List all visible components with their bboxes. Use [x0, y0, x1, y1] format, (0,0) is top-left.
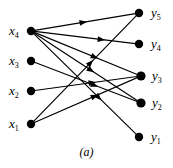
graph-node-y3[interactable]	[136, 71, 145, 80]
figure-container: x4x3x2x1y5y4y3y2y1 (a)	[0, 0, 173, 168]
graph-node-y5[interactable]	[135, 9, 143, 17]
node-label-base: x	[9, 116, 15, 131]
graph-edge	[35, 31, 136, 43]
node-label-subscript: 3	[15, 61, 19, 70]
node-label-y5: y5	[151, 6, 161, 19]
node-label-subscript: 5	[157, 13, 161, 22]
graph-edge	[34, 16, 137, 122]
node-label-base: y	[152, 68, 158, 83]
bipartite-graph-svg	[0, 0, 173, 168]
graph-node-y2[interactable]	[136, 98, 145, 107]
graph-edge	[35, 77, 137, 91]
node-label-y3: y3	[152, 69, 162, 82]
node-label-x2: x2	[9, 84, 19, 97]
node-label-y1: y1	[151, 130, 161, 143]
edge-arrowhead	[79, 20, 87, 26]
node-label-subscript: 3	[158, 76, 162, 85]
node-label-y4: y4	[151, 37, 161, 50]
graph-node-x1[interactable]	[27, 120, 35, 128]
node-label-subscript: 2	[158, 103, 162, 112]
graph-node-x4[interactable]	[27, 27, 35, 35]
node-label-base: y	[152, 95, 158, 110]
node-label-base: x	[9, 23, 15, 38]
node-label-x1: x1	[9, 117, 19, 130]
node-label-base: x	[9, 53, 15, 68]
graph-node-y4[interactable]	[135, 40, 143, 48]
node-label-x3: x3	[9, 54, 19, 67]
node-label-subscript: 4	[157, 44, 161, 53]
graph-node-y1[interactable]	[135, 133, 143, 141]
node-label-base: y	[151, 36, 157, 51]
node-label-y2: y2	[152, 96, 162, 109]
graph-node-x2[interactable]	[27, 87, 35, 95]
edge-arrowhead	[97, 36, 105, 42]
node-label-subscript: 2	[15, 91, 19, 100]
node-label-subscript: 4	[15, 31, 19, 40]
edges-group	[34, 14, 138, 135]
node-label-x4: x4	[9, 24, 19, 37]
node-label-subscript: 1	[15, 124, 19, 133]
node-label-base: y	[151, 129, 157, 144]
graph-node-x3[interactable]	[27, 57, 35, 65]
node-label-base: y	[151, 5, 157, 20]
figure-caption: (a)	[0, 145, 173, 160]
node-label-base: x	[9, 83, 15, 98]
